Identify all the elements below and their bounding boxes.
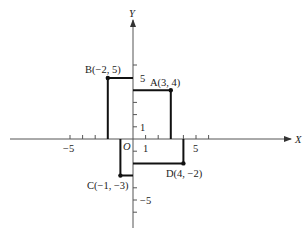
- point-b-label: B(−2, 5): [85, 64, 121, 76]
- point-c-label: C(−1, −3): [87, 180, 129, 192]
- point-c: [118, 173, 122, 177]
- origin-label: O: [123, 141, 131, 152]
- point-b: [106, 76, 110, 80]
- y-tick-label-neg5: −5: [140, 195, 151, 206]
- point-d: [181, 161, 185, 165]
- point-a-projection: [133, 90, 171, 139]
- point-b-projection: [108, 78, 133, 139]
- point-d-projection: [133, 139, 183, 163]
- y-tick-label-5: 5: [140, 73, 145, 84]
- point-d-label: D(4, −2): [166, 168, 203, 180]
- x-axis-label: X: [294, 134, 302, 145]
- coordinate-plane: X Y O −5 1 5 5 1 −5 A(3, 4) B(−2, 5) C(−…: [0, 0, 304, 236]
- y-axis-label: Y: [129, 8, 136, 19]
- point-a: [169, 88, 173, 92]
- x-tick-label-1: 1: [143, 143, 148, 154]
- x-tick-label-5: 5: [193, 143, 198, 154]
- point-a-label: A(3, 4): [150, 77, 181, 89]
- y-tick-label-1: 1: [140, 122, 145, 133]
- x-tick-label-neg5: −5: [63, 143, 74, 154]
- x-ticks: [70, 135, 209, 139]
